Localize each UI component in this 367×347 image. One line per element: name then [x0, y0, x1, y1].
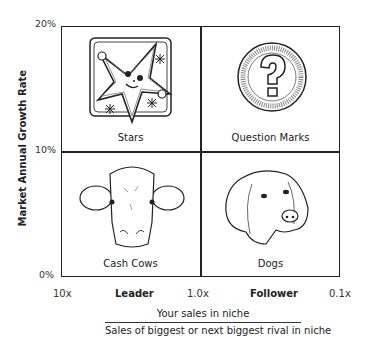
x-label-numerator: Your sales in niche	[105, 308, 301, 319]
horizontal-divider	[61, 151, 340, 153]
smiling-star-icon	[88, 36, 173, 118]
y-tick-10: 10%	[35, 144, 56, 155]
x-label-denominator: Sales of biggest or next biggest rival i…	[105, 325, 301, 336]
quadrant-label-question-marks: Question Marks	[201, 132, 340, 143]
dog-head-icon	[222, 164, 312, 248]
x-region-leader: Leader	[115, 288, 154, 299]
quadrant-label-dogs: Dogs	[201, 258, 340, 269]
fraction-line	[105, 322, 301, 323]
y-axis-label: Market Annual Growth Rate	[17, 77, 28, 227]
quadrant-label-stars: Stars	[61, 132, 200, 143]
x-tick-0-1x: 0.1x	[329, 288, 351, 299]
y-tick-0: 0%	[39, 269, 54, 280]
question-mark-medallion-icon	[236, 41, 308, 113]
x-region-follower: Follower	[250, 288, 298, 299]
cow-head-icon	[76, 158, 188, 250]
x-tick-1x: 1.0x	[187, 288, 209, 299]
quadrant-label-cash-cows: Cash Cows	[61, 258, 200, 269]
y-tick-20: 20%	[35, 18, 56, 29]
x-tick-10x: 10x	[53, 288, 72, 299]
